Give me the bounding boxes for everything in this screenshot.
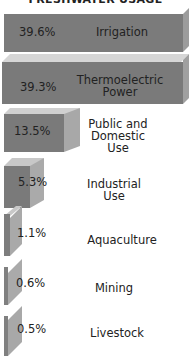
bar-category-label: Livestock [82,327,152,339]
bar-category-label: Mining [82,282,146,294]
chart-title: FRESHWATER USAGE [0,0,191,6]
bar-category-label: Thermoelectric Power [70,74,170,98]
bar-value-label: 0.5% [17,322,46,336]
bar-value-label: 13.5% [14,124,51,138]
bar-value-label: 5.3% [18,175,47,189]
bar-value-label: 39.6% [19,25,56,39]
bar-category-label: Industrial Use [84,178,144,202]
bar-value-label: 39.3% [20,80,57,94]
bar-category-label: Aquaculture [82,234,162,246]
bar-category-label: Irrigation [92,26,152,38]
bar-value-label: 1.1% [17,226,46,240]
bar-value-label: 0.6% [16,276,45,290]
bar-category-label: Public and Domestic Use [84,118,152,154]
